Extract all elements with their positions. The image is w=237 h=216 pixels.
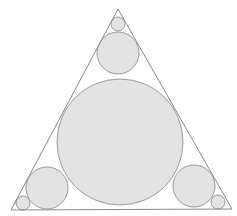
circle-bottom-right-small — [211, 195, 225, 209]
circle-bottom-right-medium — [173, 165, 215, 207]
triangle-circles-diagram — [0, 0, 237, 216]
circle-top-medium — [97, 32, 139, 74]
circle-incircle — [57, 79, 183, 205]
circles-group — [16, 17, 225, 210]
circle-bottom-left-medium — [26, 167, 68, 209]
circle-bottom-left-small — [16, 196, 30, 210]
